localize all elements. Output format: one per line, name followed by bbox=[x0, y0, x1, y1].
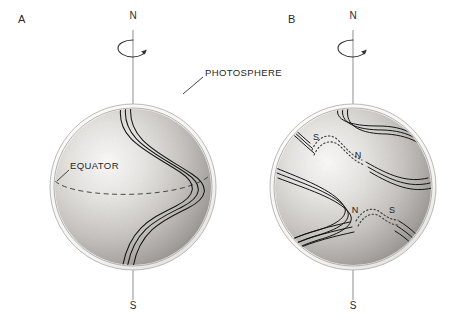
sun-sphere-a bbox=[55, 109, 211, 265]
photosphere-leader-line bbox=[183, 77, 203, 94]
figure-canvas: A N S PHOTOSPHERE EQUATOR B N S S N N S bbox=[0, 0, 471, 323]
equator-label: EQUATOR bbox=[70, 160, 119, 171]
north-pole-label-a: N bbox=[126, 10, 140, 21]
upper-left-limb-eruption bbox=[266, 102, 282, 118]
north-pole-label-b: N bbox=[346, 10, 360, 21]
south-pole-label-a: S bbox=[126, 300, 140, 311]
lower-sunspot-south-label: S bbox=[386, 205, 398, 215]
south-pole-label-b: S bbox=[346, 300, 360, 311]
upper-sunspot-south-label: S bbox=[310, 132, 322, 142]
panel-label-b: B bbox=[288, 13, 296, 25]
rotation-arrow-b bbox=[338, 40, 366, 57]
panel-label-a: A bbox=[18, 13, 26, 25]
photosphere-label: PHOTOSPHERE bbox=[205, 67, 282, 78]
upper-sunspot-north-label: N bbox=[352, 150, 364, 160]
lower-sunspot-north-label: N bbox=[349, 205, 361, 215]
panel-b-group bbox=[266, 30, 440, 300]
lower-right-limb-eruption bbox=[422, 241, 438, 257]
rotation-arrow-a bbox=[118, 40, 146, 57]
